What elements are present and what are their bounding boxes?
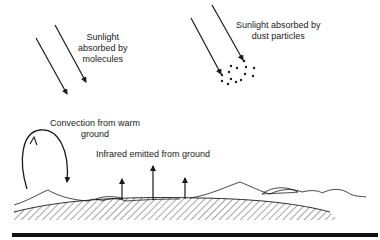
label-convection: Convection from warm ground	[50, 118, 140, 140]
label-sunlight-dust: Sunlight absorbed by dust particles	[236, 20, 321, 42]
infrared-arrows	[122, 166, 185, 200]
sunlight-ray-1	[36, 38, 67, 94]
ground	[14, 195, 344, 221]
sunlight-ray-3	[191, 18, 221, 74]
label-infrared: Infrared emitted from ground	[96, 149, 210, 160]
bottom-rule	[12, 233, 378, 237]
dust-particles	[221, 60, 255, 86]
label-sunlight-molecules: Sunlight absorbed by molecules	[78, 32, 128, 65]
